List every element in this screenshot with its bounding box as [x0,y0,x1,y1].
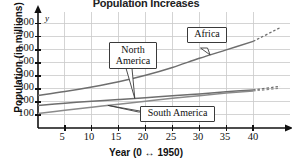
chart-container: Population Increases Population (in mill… [0,0,292,163]
plot-area [0,0,292,163]
callout-line: Africa [191,29,223,40]
callout-line: North [113,44,153,55]
callout-south-america: South America [140,106,215,122]
callout-line: South America [144,108,211,119]
callout-africa: Africa [187,27,227,43]
data-curves [38,28,280,114]
callout-tail [201,48,211,55]
callout-line: America [113,55,153,66]
curve-extension-africa [253,28,280,42]
callout-north-america: North America [109,42,157,69]
